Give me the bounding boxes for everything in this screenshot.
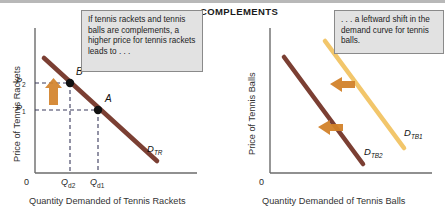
x-axis-label-rackets: Quantity Demanded of Tennis Rackets <box>29 196 186 206</box>
y-tick-p2: P2 <box>16 76 26 88</box>
origin-label-balls: 0 <box>259 177 264 187</box>
x-tick-qd2: Qd2 <box>61 177 75 189</box>
curve-label-dtr: DTR <box>147 143 162 156</box>
callout-left: If tennis rackets and tennis balls are c… <box>81 10 203 72</box>
y-axis-label-balls: Price of Tennis Balls <box>247 72 257 155</box>
y-tick-p1: P1 <box>16 103 26 115</box>
point-a <box>94 106 102 114</box>
x-axis-label-balls: Quantity Demanded of Tennis Balls <box>262 196 405 206</box>
arrow-price-up <box>45 78 62 105</box>
curve-label-dtb2: DTB2 <box>364 146 383 159</box>
curve-label-dtb1: DTB1 <box>404 127 423 140</box>
figure-complements: COMPLEMENTS Price of Tennis Rackets Quan <box>0 0 445 214</box>
callout-right: . . . a leftward shift in the demand cur… <box>334 10 444 54</box>
origin-label-rackets: 0 <box>24 177 29 187</box>
point-label-a: A <box>105 93 112 104</box>
point-b <box>66 79 74 87</box>
x-tick-qd1: Qd1 <box>90 177 104 189</box>
